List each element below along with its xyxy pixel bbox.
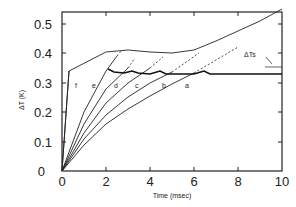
svg-text:0.4: 0.4 — [34, 46, 52, 61]
chart: 0 2 4 6 8 10 0 0.1 0.2 0.3 0.4 0.5 Time … — [0, 0, 296, 207]
x-ticks — [106, 12, 238, 171]
svg-text:a: a — [185, 82, 189, 89]
svg-text:0: 0 — [38, 164, 45, 179]
y-tick-labels: 0 0.1 0.2 0.3 0.4 0.5 — [34, 17, 52, 179]
svg-text:8: 8 — [234, 174, 241, 189]
svg-text:0: 0 — [58, 174, 65, 189]
svg-text:4: 4 — [146, 174, 153, 189]
curves — [62, 9, 282, 171]
curve-a — [62, 73, 194, 171]
svg-text:2: 2 — [102, 174, 109, 189]
svg-text:f: f — [75, 82, 77, 89]
x-axis-label: Time (msec) — [153, 192, 192, 200]
curve-labels: f e d c b a — [75, 82, 189, 89]
delta-ts-line — [108, 69, 282, 74]
x-tick-labels: 0 2 4 6 8 10 — [58, 174, 289, 189]
svg-text:b: b — [162, 82, 166, 89]
svg-text:6: 6 — [190, 174, 197, 189]
svg-text:c: c — [135, 82, 139, 89]
annotation-leader — [266, 57, 272, 64]
svg-text:d: d — [114, 82, 118, 89]
svg-text:0.2: 0.2 — [34, 105, 52, 120]
y-axis-label: ΔT (K) — [18, 90, 26, 110]
svg-text:0.5: 0.5 — [34, 17, 52, 32]
svg-text:0.3: 0.3 — [34, 76, 52, 91]
delta-ts-annotation: ΔTs — [244, 51, 256, 58]
upper-envelope — [62, 9, 282, 171]
svg-text:0.1: 0.1 — [34, 135, 52, 150]
svg-text:e: e — [92, 82, 96, 89]
svg-text:10: 10 — [275, 174, 289, 189]
